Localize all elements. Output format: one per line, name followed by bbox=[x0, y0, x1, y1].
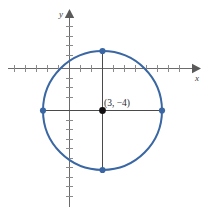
center-point-dot bbox=[99, 107, 106, 114]
x-axis-arrow-icon bbox=[192, 64, 201, 73]
y-axis-label: y bbox=[58, 9, 63, 19]
center-point-label: (3, −4) bbox=[104, 98, 130, 109]
coordinate-plane-svg: (3, −4) x y bbox=[0, 0, 210, 218]
right-point-dot bbox=[159, 107, 165, 113]
bottom-point-dot bbox=[99, 167, 105, 173]
left-point-dot bbox=[40, 107, 46, 113]
y-axis-arrow-icon bbox=[65, 9, 74, 18]
circle-graph-figure: (3, −4) x y bbox=[0, 0, 210, 218]
x-axis-label: x bbox=[194, 73, 199, 83]
top-point-dot bbox=[99, 48, 105, 54]
